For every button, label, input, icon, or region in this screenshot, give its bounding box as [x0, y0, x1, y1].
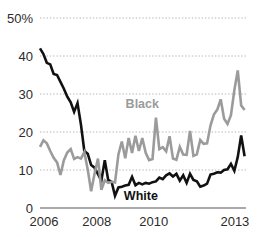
- x-axis-tick-label: 2013: [220, 214, 249, 229]
- x-axis-tick-label: 2008: [82, 214, 111, 229]
- x-axis-tick-label: 2006: [30, 214, 59, 229]
- y-axis-tick-label: 20: [19, 125, 33, 140]
- x-axis-tick-label: 2010: [139, 214, 168, 229]
- series-label-black: Black: [126, 97, 159, 111]
- chart-container: 01020304050% 2006200820102013 WhiteBlack: [0, 0, 263, 237]
- y-axis-tick-label: 40: [19, 49, 33, 64]
- x-axis-tick-labels: 2006200820102013: [30, 214, 250, 229]
- series-line-white: [40, 48, 245, 195]
- line-chart: 01020304050% 2006200820102013 WhiteBlack: [0, 0, 263, 237]
- y-axis-tick-label: 10: [19, 163, 33, 178]
- y-axis-tick-labels: 01020304050%: [7, 11, 33, 216]
- y-axis-tick-label: 50%: [7, 11, 33, 26]
- series-label-white: White: [124, 189, 158, 203]
- series-lines: [40, 48, 245, 195]
- y-axis-tick-label: 30: [19, 87, 33, 102]
